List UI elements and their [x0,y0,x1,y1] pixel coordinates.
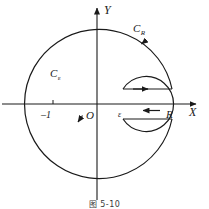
y-axis-label: Y [104,3,112,17]
figure-caption: 图 5-10 [0,198,209,209]
axes-group [2,8,196,200]
outer-curve-label: CR [133,22,146,37]
epsilon-label: ε [118,110,122,119]
keyhole-contour-diagram: Y X O –1 ε R CR Cε [0,0,209,209]
radius-label: R [165,108,173,120]
outer-arc-direction-arrow [142,41,147,45]
minus-one-label: –1 [40,109,51,120]
x-axis-label: X [188,105,197,119]
origin-label: O [86,109,94,121]
inner-curve-label: Cε [50,67,61,82]
figure-container: Y X O –1 ε R CR Cε 图 5-10 [0,0,209,209]
inner-arc-direction-arrow [78,116,83,123]
